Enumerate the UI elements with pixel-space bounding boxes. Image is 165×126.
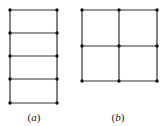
panel-b-label: (b) xyxy=(112,111,125,124)
grid-node xyxy=(55,31,58,34)
grid-node xyxy=(80,8,83,11)
grid-node xyxy=(8,101,11,104)
grid-node xyxy=(8,54,11,57)
grid-node xyxy=(155,8,158,11)
grid-diagram: (a) (b) xyxy=(0,0,165,126)
grid-node xyxy=(117,44,120,47)
panel-a-ladder-grid xyxy=(8,8,58,104)
panel-b-square-grid xyxy=(80,8,158,82)
grid-node xyxy=(155,44,158,47)
grid-node xyxy=(155,79,158,82)
grid-node xyxy=(80,79,83,82)
grid-node xyxy=(55,54,58,57)
grid-node xyxy=(55,8,58,11)
grid-node xyxy=(55,101,58,104)
grid-node xyxy=(80,44,83,47)
grid-node xyxy=(8,31,11,34)
grid-node xyxy=(117,79,120,82)
grid-node xyxy=(55,77,58,80)
panel-a-label: (a) xyxy=(28,111,41,124)
grid-node xyxy=(8,8,11,11)
grid-node xyxy=(117,8,120,11)
grid-node xyxy=(8,77,11,80)
